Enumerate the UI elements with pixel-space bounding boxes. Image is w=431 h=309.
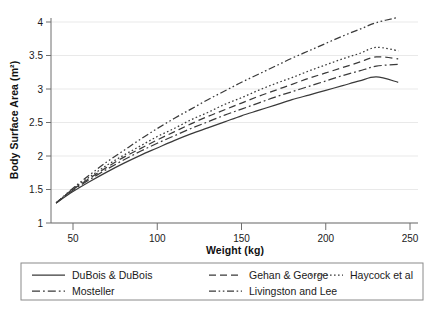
x-tick-label: 50 [67,233,79,244]
y-tick-label: 2 [37,151,43,162]
legend-label: Haycock et al [350,269,413,281]
x-tick-label: 250 [402,233,419,244]
legend-label: Mosteller [72,285,115,297]
x-tick-label: 200 [317,233,334,244]
chart-figure: 11.522.533.54 50100150200250 Body Surfac… [0,0,431,309]
x-tick-label: 150 [233,233,250,244]
y-tick-label: 3 [37,84,43,95]
bsa-formula-line-chart: 11.522.533.54 50100150200250 Body Surfac… [0,0,431,309]
y-tick-label: 2.5 [29,117,43,128]
legend-label: DuBois & DuBois [72,269,153,281]
legend-label: Gehan & George [249,269,329,281]
y-tick-label: 4 [37,17,43,28]
y-tick-label: 3.5 [29,50,43,61]
y-tick-label: 1 [37,218,43,229]
y-axis-title: Body Surface Area (m²) [8,61,20,180]
x-tick-label: 100 [149,233,166,244]
x-axis-title: Weight (kg) [206,244,264,256]
y-tick-label: 1.5 [29,184,43,195]
legend-label: Livingston and Lee [249,285,337,297]
